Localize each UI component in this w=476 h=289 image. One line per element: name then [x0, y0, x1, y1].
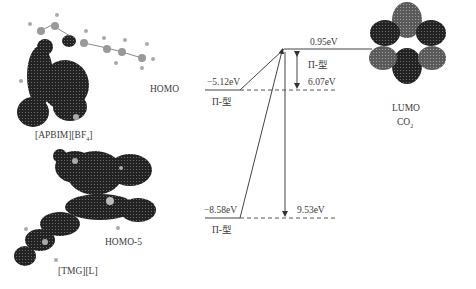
co2-name-sub: 2: [410, 123, 413, 129]
apbim-name-main: [APBIM][BF: [35, 130, 86, 140]
gap-6-07-label: 6.07eV: [308, 77, 336, 87]
homo5-transition-line: [240, 51, 282, 218]
co2-name-main: CO: [397, 117, 410, 127]
homo-type-label: Π-型: [212, 94, 232, 108]
homo-orbital-label: HOMO: [150, 84, 179, 94]
apbim-name-label: [APBIM][BF4]: [35, 130, 92, 142]
tmg-homo5-orbital: [14, 149, 156, 266]
homo5-energy-label: −8.58eV: [204, 205, 237, 215]
energy-diagram: −5.12eV Π-型 HOMO [APBIM][BF4] 0.95eV Π-型…: [0, 0, 476, 289]
gap-type-label: Π-型: [308, 57, 328, 71]
homo5-orbital-label: HOMO-5: [105, 237, 142, 247]
diagram-lines: [0, 0, 476, 289]
apbim-homo-orbital: [17, 13, 155, 127]
co2-lumo-orbital: [369, 2, 446, 84]
apbim-name-end: ]: [89, 130, 92, 140]
gap-9-53-label: 9.53eV: [297, 205, 325, 215]
co2-name-label: CO2: [397, 117, 413, 129]
homo5-type-label: Π-型: [212, 222, 232, 236]
tmg-name-label: [TMG][L]: [58, 266, 98, 276]
lumo-orbital-label: LUMO: [392, 103, 420, 113]
lumo-energy-label: 0.95eV: [310, 37, 338, 47]
homo-energy-label: −5.12eV: [207, 77, 240, 87]
